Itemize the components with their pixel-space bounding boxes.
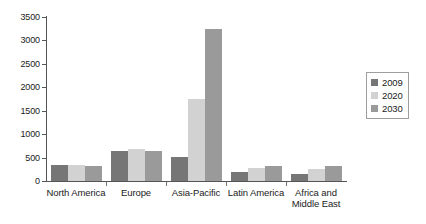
bar [111, 151, 128, 181]
plot-area [46, 17, 346, 181]
x-axis-category-label: Africa and Middle East [271, 187, 361, 209]
y-axis-tick-label: 2500 [0, 59, 40, 68]
legend-item-label: 2009 [382, 78, 403, 88]
bar [145, 151, 162, 181]
x-axis-tick-mark [166, 182, 167, 186]
bar [308, 169, 325, 181]
y-axis-tick-label: 0 [0, 177, 40, 186]
bar-chart: 0500100015002000250030003500 North Ameri… [0, 0, 426, 224]
bar [68, 165, 85, 181]
bar [85, 166, 102, 181]
y-axis-tick-label: 500 [0, 153, 40, 162]
y-axis-tick-label: 1000 [0, 130, 40, 139]
bar-group [171, 17, 222, 181]
bar [51, 165, 68, 181]
x-axis-line [46, 181, 347, 182]
y-axis-tick-mark [42, 181, 46, 182]
x-axis-tick-mark [286, 182, 287, 186]
bar-group [231, 17, 282, 181]
bar [291, 174, 308, 181]
legend: 2009 2020 2030 [366, 72, 409, 119]
legend-swatch-icon [371, 92, 378, 99]
y-axis-tick-label: 3500 [0, 13, 40, 22]
legend-item-2009[interactable]: 2009 [371, 76, 403, 89]
bar [248, 168, 265, 181]
legend-item-label: 2030 [382, 104, 403, 114]
bar [231, 172, 248, 181]
legend-swatch-icon [371, 79, 378, 86]
x-axis-tick-mark [226, 182, 227, 186]
x-axis-tick-mark [106, 182, 107, 186]
bar [325, 166, 342, 181]
bar [188, 99, 205, 181]
legend-item-label: 2020 [382, 91, 403, 101]
legend-item-2020[interactable]: 2020 [371, 89, 403, 102]
bar-group [51, 17, 102, 181]
bar [265, 166, 282, 181]
bar [205, 29, 222, 181]
y-axis-tick-label: 2000 [0, 83, 40, 92]
bar-group [291, 17, 342, 181]
bar [171, 157, 188, 181]
y-axis-tick-label: 3000 [0, 36, 40, 45]
bar [128, 149, 145, 181]
y-axis-tick-label: 1500 [0, 106, 40, 115]
legend-item-2030[interactable]: 2030 [371, 102, 403, 115]
bar-group [111, 17, 162, 181]
legend-swatch-icon [371, 105, 378, 112]
